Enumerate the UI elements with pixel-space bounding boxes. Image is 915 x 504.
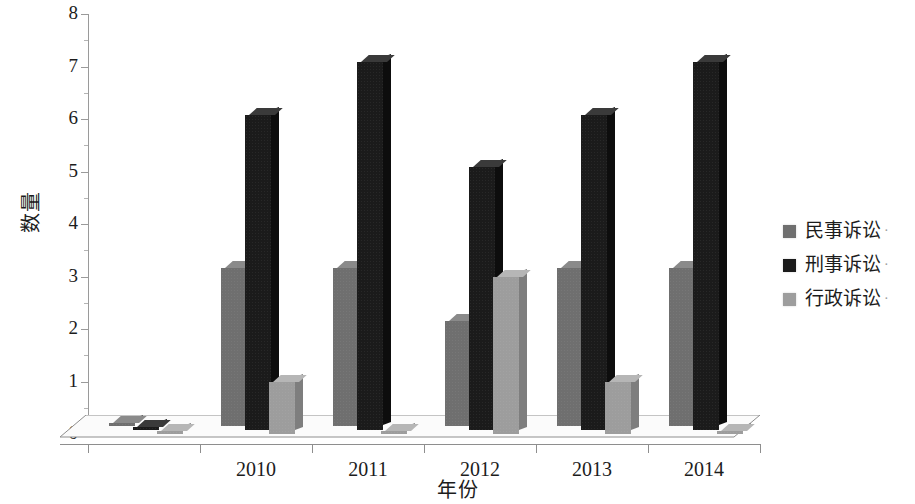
y-axis-tick-mark — [81, 119, 88, 120]
bar-face — [133, 427, 159, 430]
y-axis-tick-label: 5 — [69, 161, 79, 181]
legend-trailing-mark: · — [884, 223, 889, 239]
legend-label: 行政诉讼 — [805, 289, 881, 309]
legend-swatch-icon — [783, 259, 796, 272]
bar-face — [605, 382, 631, 435]
chart-legend: 民事诉讼·刑事诉讼·行政诉讼· — [783, 214, 915, 316]
bar-group — [424, 14, 536, 434]
bar-face — [381, 431, 407, 434]
legend-swatch-icon — [783, 225, 796, 238]
bar-face — [557, 268, 583, 426]
y-axis-tick-mark — [81, 14, 88, 15]
bar-top — [385, 424, 419, 431]
bar-face — [445, 321, 471, 426]
x-axis-tick-mark — [424, 444, 425, 453]
x-axis-tick-mark — [760, 444, 761, 453]
legend-item[interactable]: 刑事诉讼· — [783, 248, 915, 282]
bar-side — [383, 54, 391, 424]
y-axis-tick-label: 2 — [69, 318, 79, 338]
y-axis-tick-label: 4 — [69, 213, 79, 233]
bar-face — [157, 431, 183, 434]
x-axis-tick-mark — [200, 444, 201, 453]
legend-item[interactable]: 民事诉讼· — [783, 214, 915, 248]
legend-label: 民事诉讼 — [805, 221, 881, 241]
x-axis-title: 年份 — [0, 474, 915, 503]
bar-top — [161, 424, 195, 431]
bar-side — [519, 269, 527, 429]
x-axis-tick-mark — [536, 444, 537, 453]
bar-group — [88, 14, 200, 434]
y-axis-tick-label: 1 — [69, 371, 79, 391]
x-axis-tick-mark — [648, 444, 649, 453]
y-axis-tick-mark — [81, 172, 88, 173]
x-axis-tick-mark — [312, 444, 313, 453]
bar-face — [493, 277, 519, 435]
y-axis-tick-label: 7 — [69, 56, 79, 76]
y-axis-tick-label: 3 — [69, 266, 79, 286]
bar-side — [719, 54, 727, 424]
bar-group — [648, 14, 760, 434]
bar-face — [581, 115, 607, 430]
bar-face — [357, 62, 383, 430]
legend-label: 刑事诉讼 — [805, 255, 881, 275]
legend-swatch-icon — [783, 293, 796, 306]
chart-3d-column: 数量 876543210 20102011201220132014 年份 民事诉… — [0, 0, 915, 504]
y-axis-title: 数量 — [15, 191, 44, 233]
bar-face — [333, 268, 359, 426]
bar-face — [693, 62, 719, 430]
y-axis-tick-label: 6 — [69, 108, 79, 128]
x-axis-line — [60, 444, 760, 445]
legend-trailing-mark: · — [884, 291, 889, 307]
bar-face — [469, 167, 495, 430]
plot-area: 876543210 — [88, 14, 760, 434]
bar-face — [717, 431, 743, 434]
bar-group — [200, 14, 312, 434]
y-axis-tick-label: 0 — [69, 423, 79, 443]
bar-group — [312, 14, 424, 434]
y-axis-tick-mark — [81, 277, 88, 278]
y-axis-tick-mark — [81, 434, 88, 435]
bar-face — [245, 115, 271, 430]
legend-item[interactable]: 行政诉讼· — [783, 282, 915, 316]
y-axis-tick-mark — [81, 382, 88, 383]
bar-group — [536, 14, 648, 434]
bar-face — [269, 382, 295, 435]
bar-groups — [88, 14, 760, 434]
bar-face — [669, 268, 695, 426]
y-axis-tick-mark — [81, 329, 88, 330]
y-axis-tick-mark — [81, 67, 88, 68]
x-axis-tick-mark — [88, 444, 89, 453]
bar-face — [221, 268, 247, 426]
legend-trailing-mark: · — [884, 257, 889, 273]
y-axis-tick-mark — [81, 224, 88, 225]
bar-top — [721, 424, 755, 431]
y-axis-tick-label: 8 — [69, 3, 79, 23]
